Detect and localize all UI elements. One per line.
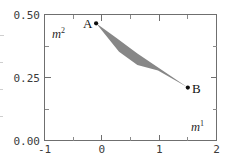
- point-marker-b: [186, 85, 190, 89]
- y-tick-label-2: 0.50: [14, 9, 41, 22]
- x-axis-title-base: m: [191, 120, 200, 134]
- axis-titles: m2 m1: [52, 26, 204, 134]
- y-axis-title: m2: [52, 26, 65, 41]
- x-tick-labels: -1 0 1 2: [38, 143, 220, 156]
- x-tick-label-1: 0: [98, 143, 105, 156]
- y-tick-label-0: 0.00: [14, 135, 41, 148]
- point-label-a: A: [83, 16, 93, 31]
- chart-figure: A B -1 0 1 2 0.50 0.25 0.00 m2 m1: [0, 0, 233, 161]
- chart-canvas: A B -1 0 1 2 0.50 0.25 0.00 m2 m1: [0, 0, 233, 161]
- y-tick-labels: 0.50 0.25 0.00: [14, 9, 41, 148]
- point-marker-a: [94, 21, 98, 25]
- x-axis-title: m1: [191, 119, 204, 134]
- x-tick-label-3: 2: [213, 143, 220, 156]
- x-axis-title-superscript: 1: [200, 119, 204, 128]
- y-axis-title-superscript: 2: [61, 26, 65, 35]
- y-tick-label-1: 0.25: [14, 72, 41, 85]
- x-tick-label-2: 1: [156, 143, 163, 156]
- y-axis-title-base: m: [52, 27, 61, 41]
- cropped-edge-artifacts: [0, 35, 4, 117]
- region-group: [96, 23, 188, 87]
- point-label-b: B: [192, 81, 201, 96]
- admissible-region: [96, 23, 188, 87]
